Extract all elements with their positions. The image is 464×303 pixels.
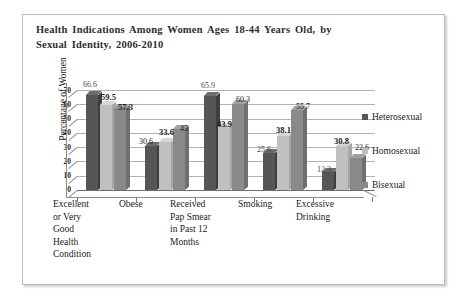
value-label-homo-3: 43.9 [217,120,232,129]
y-tick-60: 60 [49,101,71,109]
value-label-bi-2: 43 [180,124,188,133]
floor-left-edge [66,190,67,197]
y-tick-20: 20 [49,158,71,166]
category-line: Drinking [296,211,366,224]
y-tick-10: 10 [49,172,71,180]
y-tick-50: 50 [49,115,71,123]
bar-face [277,136,289,190]
bar-series-container: 66.6 59.5 57.3 30.6 33.6 43 65.9 43.9 60… [77,90,375,190]
category-line: Received [170,198,232,211]
bar-side [244,101,248,190]
category-line: Months [170,236,232,249]
bar-homosexual[interactable] [100,105,112,190]
y-tick-30: 30 [49,144,71,152]
category-label-pap-smear: Received Pap Smear in Past 12 Months [170,198,232,248]
bar-face [350,158,362,190]
value-label-bi-1: 57.3 [118,103,133,112]
chart-title-line-2: Sexual Identity, 2006-2010 [36,37,366,52]
category-line: Excellent [53,198,111,211]
value-label-hetero-2: 30.6 [139,137,153,146]
bar-face [218,127,230,190]
category-line: or Very [53,211,111,224]
legend-label-bisexual: Bisexual [372,180,405,190]
bar-face [173,129,185,190]
category-label-smoking: Smoking [238,198,296,211]
category-label-excellent-health: Excellent or Very Good Health Condition [53,198,111,261]
value-label-hetero-1: 66.6 [83,80,97,89]
category-line: Condition [53,248,111,261]
value-label-hetero-5: 12.3 [317,165,331,174]
bar-face [145,146,157,190]
bar-heterosexual[interactable] [86,95,98,190]
y-tick-70: 70 [49,87,71,95]
bar-bisexual[interactable] [350,158,362,190]
bar-homosexual[interactable] [277,136,289,190]
value-label-hetero-3: 65.9 [201,81,215,90]
bar-heterosexual[interactable] [263,153,275,190]
bar-group [204,90,263,190]
category-line: Excessive [296,198,366,211]
bar-face [291,110,303,190]
bar-face [100,105,112,190]
bar-homosexual[interactable] [159,142,171,190]
value-label-bi-4: 55.7 [296,102,310,111]
bar-bisexual[interactable] [291,110,303,190]
value-label-homo-4: 38.1 [276,126,291,135]
bar-group [145,90,204,190]
legend-item-bisexual[interactable]: Bisexual [362,168,448,202]
category-line: Obese [119,198,174,211]
legend-swatch-heterosexual [362,114,368,120]
chart-title-line-1: Health Indications Among Women Ages 18-4… [36,22,366,37]
bar-side [185,125,189,190]
y-tick-40: 40 [49,129,71,137]
bar-group [86,90,145,190]
legend-label-homosexual: Homosexual [372,146,420,156]
bar-face [204,96,216,190]
bar-heterosexual[interactable] [145,146,157,190]
bar-group [263,90,322,190]
value-label-bi-3: 60.3 [236,95,250,104]
category-line: Smoking [238,198,296,211]
legend-label-heterosexual: Heterosexual [372,112,422,122]
x-axis-line [77,190,375,191]
chart-title: Health Indications Among Women Ages 18-4… [36,22,366,52]
category-line: Pap Smear [170,211,232,224]
category-line: Good [53,223,111,236]
legend-item-homosexual[interactable]: Homosexual [362,134,448,168]
x-axis-category-labels: Excellent or Very Good Health Condition … [33,198,363,288]
category-label-obese: Obese [119,198,174,211]
value-label-homo-5: 30.8 [334,137,349,146]
bar-bisexual[interactable] [232,104,244,190]
value-label-homo-2: 33.6 [159,128,174,137]
bar-heterosexual[interactable] [322,172,334,190]
category-line: Health [53,236,111,249]
chart-legend: Heterosexual Homosexual Bisexual [362,100,448,202]
y-axis-line [66,83,67,190]
bar-face [263,153,275,190]
bar-side [303,107,307,190]
bar-face [159,142,171,190]
bar-bisexual[interactable] [173,129,185,190]
bar-homosexual[interactable] [218,127,230,190]
category-line: in Past 12 [170,223,232,236]
bar-face [86,95,98,190]
bar-side [126,105,130,190]
bar-homosexual[interactable] [336,146,348,190]
value-label-hetero-4: 25.6 [257,145,271,154]
value-label-homo-1: 59.5 [101,93,116,102]
bar-face [322,172,334,190]
legend-swatch-bisexual [362,182,368,188]
bar-face [114,108,126,190]
bar-heterosexual[interactable] [204,96,216,190]
category-label-excessive-drinking: Excessive Drinking [296,198,366,223]
legend-item-heterosexual[interactable]: Heterosexual [362,100,448,134]
legend-swatch-homosexual [362,148,368,154]
bar-face [336,146,348,190]
bar-face [232,104,244,190]
y-tick-0: 0 [49,186,71,194]
bar-bisexual[interactable] [114,108,126,190]
